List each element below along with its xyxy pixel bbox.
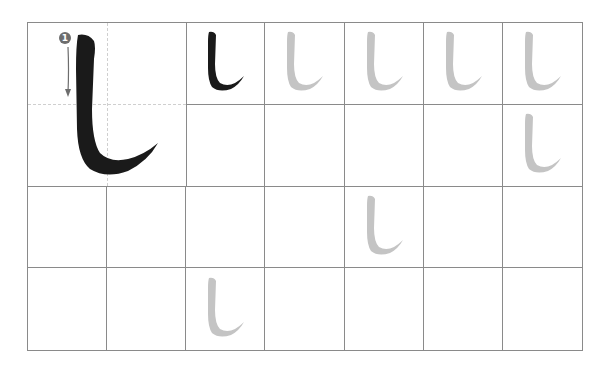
practice-cell[interactable]: [265, 187, 344, 269]
practice-cell[interactable]: [345, 23, 424, 105]
character-shi-trace-icon: [443, 30, 483, 96]
character-shi-trace-icon: [364, 194, 404, 260]
character-shi-trace-icon: [364, 30, 404, 96]
practice-cell[interactable]: [424, 268, 503, 350]
practice-cell[interactable]: [186, 23, 265, 105]
practice-cell[interactable]: [265, 268, 344, 350]
practice-cell[interactable]: [503, 23, 582, 105]
practice-cell[interactable]: [345, 105, 424, 187]
practice-cell[interactable]: [186, 187, 265, 269]
character-shi-large-icon: [70, 29, 166, 177]
practice-sheet: 1: [27, 22, 583, 351]
practice-cell[interactable]: [424, 105, 503, 187]
practice-cell[interactable]: [503, 187, 582, 269]
practice-cell[interactable]: [28, 268, 107, 350]
example-cell: 1: [28, 23, 187, 187]
practice-cell[interactable]: [186, 268, 265, 350]
practice-cell[interactable]: [503, 105, 582, 187]
practice-cell[interactable]: [107, 268, 186, 350]
practice-cell[interactable]: [424, 23, 503, 105]
practice-cell[interactable]: [186, 105, 265, 187]
character-shi-trace-icon: [284, 30, 324, 96]
practice-cell[interactable]: [265, 23, 344, 105]
practice-cell[interactable]: [424, 187, 503, 269]
character-shi-trace-icon: [205, 276, 245, 342]
practice-cell[interactable]: [345, 268, 424, 350]
practice-cell[interactable]: [503, 268, 582, 350]
practice-cell[interactable]: [107, 187, 186, 269]
character-shi-trace-icon: [522, 30, 562, 96]
practice-cell[interactable]: [265, 105, 344, 187]
character-shi-trace-icon: [522, 112, 562, 178]
practice-cell[interactable]: [28, 187, 107, 269]
practice-cell[interactable]: [345, 187, 424, 269]
character-shi-model-icon: [205, 30, 245, 96]
